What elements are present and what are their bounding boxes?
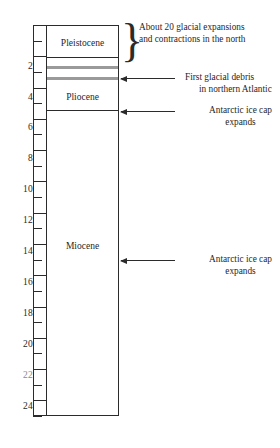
axis-tick-major — [33, 213, 46, 214]
annotation-line-2: expands — [209, 266, 272, 278]
annotation-first-glacial-debris: First glacial debrisin northern Atlantic — [185, 72, 272, 95]
epoch-label-pliocene: Pliocene — [46, 92, 119, 102]
axis-label-10: 10 — [23, 185, 33, 195]
axis-tick-major — [33, 275, 46, 276]
time-axis — [33, 25, 46, 416]
axis-tick-minor — [33, 291, 42, 292]
axis-tick-minor — [33, 134, 42, 135]
axis-tick-major — [33, 119, 46, 120]
epoch-label-miocene: Miocene — [46, 241, 119, 251]
boundary-pliocene-base — [46, 110, 119, 111]
annotation-glacial-expansions: About 20 glacial expansionsand contracti… — [139, 22, 245, 45]
axis-tick-major — [33, 400, 46, 401]
annotation-line-1: Antarctic ice cap — [209, 105, 272, 115]
annotation-line-1: First glacial debris — [185, 72, 254, 82]
axis-tick-minor — [33, 41, 42, 42]
axis-tick-minor — [33, 260, 42, 261]
axis-tick-major — [33, 244, 46, 245]
annotation-antarctic-ice-cap-miocene: Antarctic ice capexpands — [209, 254, 272, 277]
axis-label-16: 16 — [23, 278, 33, 288]
axis-tick-major — [33, 150, 46, 151]
annotation-line-2: and contractions in the north — [139, 34, 245, 46]
axis-tick-minor — [33, 228, 42, 229]
leader-arrow-icon — [121, 111, 175, 112]
leader-arrow-icon — [121, 78, 175, 79]
axis-tick-major — [33, 181, 46, 182]
boundary-pleistocene-base — [46, 57, 119, 58]
annotation-line-2: expands — [209, 117, 272, 129]
epoch-label-pleistocene: Pleistocene — [46, 38, 119, 48]
axis-tick-minor — [33, 322, 42, 323]
axis-tick-minor — [33, 72, 42, 73]
axis-label-14: 14 — [23, 247, 33, 257]
gray-marker-band-upper — [47, 66, 118, 69]
axis-label-4: 4 — [28, 93, 33, 103]
axis-label-22: 22 — [23, 371, 33, 381]
brace-icon: } — [121, 18, 133, 64]
axis-tick-minor — [33, 353, 42, 354]
axis-label-8: 8 — [28, 154, 33, 164]
axis-tick-major — [33, 56, 46, 57]
axis-tick-minor — [33, 166, 42, 167]
axis-tick-major — [33, 307, 46, 308]
axis-tick-minor — [33, 416, 42, 417]
gray-marker-band-lower — [47, 77, 118, 80]
axis-label-20: 20 — [23, 340, 33, 350]
axis-tick-minor — [33, 197, 42, 198]
axis-tick-minor — [33, 385, 42, 386]
stratigraphic-column — [46, 25, 119, 416]
axis-label-18: 18 — [23, 309, 33, 319]
axis-label-2: 2 — [28, 62, 33, 72]
axis-tick-major — [33, 88, 46, 89]
axis-tick-major — [33, 369, 46, 370]
axis-label-24: 24 — [23, 402, 33, 412]
annotation-line-1: About 20 glacial expansions — [139, 22, 245, 32]
figure-canvas: 24681012141618202224 Pleistocene Pliocen… — [0, 0, 280, 448]
axis-label-6: 6 — [28, 123, 33, 133]
leader-arrow-icon — [121, 260, 175, 261]
annotation-line-1: Antarctic ice cap — [209, 254, 272, 264]
annotation-antarctic-ice-cap-pliocene: Antarctic ice capexpands — [209, 105, 272, 128]
axis-label-12: 12 — [23, 216, 33, 226]
axis-tick-major — [33, 338, 46, 339]
annotation-line-2: in northern Atlantic — [185, 84, 272, 96]
axis-tick-minor — [33, 103, 42, 104]
